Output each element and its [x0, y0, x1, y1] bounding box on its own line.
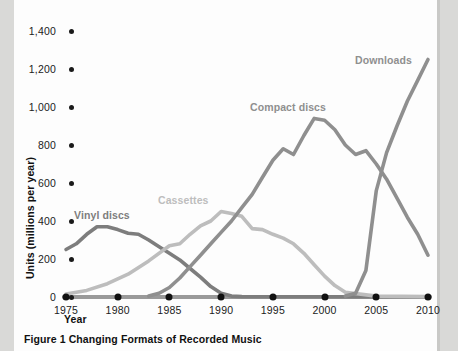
x-tick-marker: [321, 294, 328, 301]
figure-caption: Figure 1 Changing Formats of Recorded Mu…: [24, 333, 262, 345]
x-tick-marker: [269, 294, 276, 301]
x-tick-label: 1975: [54, 305, 78, 316]
y-tick-label: 1,200: [12, 64, 56, 75]
y-tick-marker: [69, 295, 74, 300]
x-tick-marker: [218, 294, 225, 301]
y-tick-marker: [69, 257, 74, 262]
x-tick-label: 1990: [209, 305, 233, 316]
y-tick-marker: [69, 181, 74, 186]
x-tick-label: 1985: [157, 305, 181, 316]
x-tick-label: 1995: [261, 305, 285, 316]
x-tick-label: 2010: [416, 305, 440, 316]
y-axis-title: Units (millions per year): [24, 148, 36, 288]
y-tick-marker: [69, 67, 74, 72]
y-tick-label: 1,400: [12, 26, 56, 37]
series-label-vinyl-discs: Vinyl discs: [74, 210, 130, 221]
x-tick-label: 2005: [364, 305, 388, 316]
x-tick-marker: [114, 294, 121, 301]
x-tick-label: 1980: [106, 305, 130, 316]
figure-page: 02004006008001,0001,2001,400 Units (mill…: [0, 0, 458, 351]
x-tick-marker: [63, 294, 70, 301]
series-label-cassettes: Cassettes: [158, 195, 209, 206]
y-tick-label: 1,000: [12, 102, 56, 113]
x-tick-marker: [425, 294, 432, 301]
y-tick-marker: [69, 143, 74, 148]
series-label-compact-discs: Compact discs: [250, 102, 326, 113]
y-tick-label: 0: [12, 292, 56, 303]
y-tick-marker: [69, 105, 74, 110]
chart-figure: 02004006008001,0001,2001,400 Units (mill…: [0, 0, 458, 351]
y-tick-marker: [69, 29, 74, 34]
x-tick-marker: [373, 294, 380, 301]
series-line-vinyl-discs: [66, 227, 428, 297]
x-tick-marker: [166, 294, 173, 301]
x-tick-label: 2000: [312, 305, 336, 316]
series-label-downloads: Downloads: [355, 55, 412, 66]
